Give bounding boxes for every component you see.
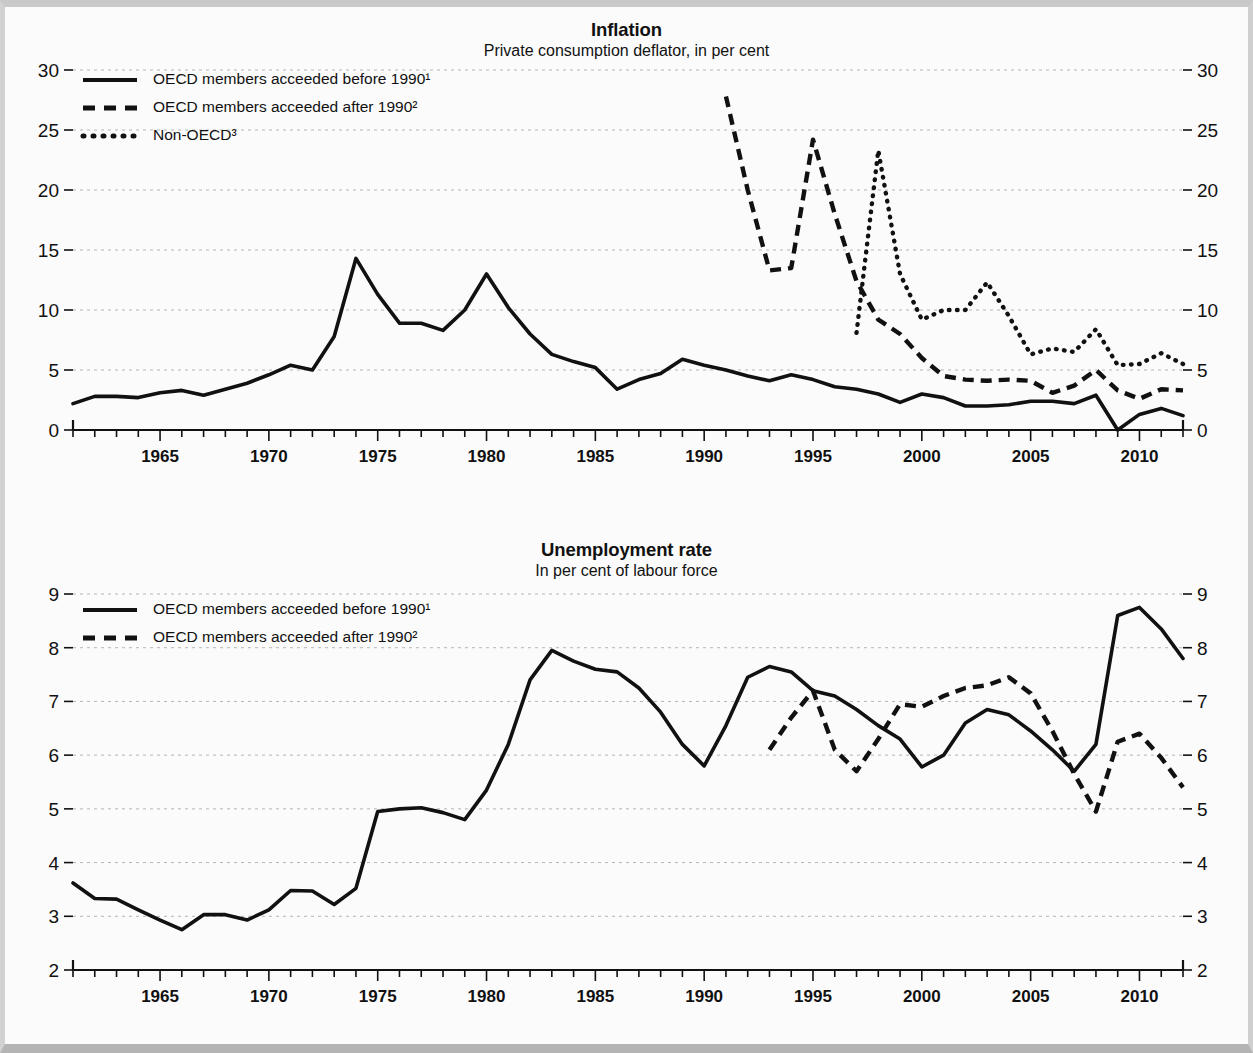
x-tick-label: 1985 [576,447,614,466]
unemployment-figure: Unemployment rate In per cent of labour … [5,517,1248,1044]
inflation-subtitle: Private consumption deflator, in per cen… [5,42,1248,60]
x-minor-ticks [73,970,1183,981]
inflation-figure: Inflation Private consumption deflator, … [5,7,1248,517]
y-tick-label-right: 2 [1197,960,1208,981]
y-tick-label-left: 3 [48,906,59,927]
unemployment-plot: 2233445566778899196519701975198019851990… [5,580,1248,1030]
x-tick-label: 1965 [141,987,179,1006]
y-tick-label-right: 0 [1197,420,1208,441]
y-tick-label-left: 4 [48,853,59,874]
y-tick-label-right: 20 [1197,180,1218,201]
y-tick-label-right: 8 [1197,638,1208,659]
y-tick-label-right: 6 [1197,745,1208,766]
y-tick-label-left: 0 [48,420,59,441]
y-tick-label-left: 20 [38,180,59,201]
inflation-titles: Inflation Private consumption deflator, … [5,7,1248,60]
series-line-solid [73,607,1183,929]
x-tick-label: 2005 [1012,987,1050,1006]
series-line-dotted [857,150,1183,365]
legend: OECD members acceeded before 1990¹OECD m… [83,600,430,645]
y-tick-label-left: 25 [38,120,59,141]
x-tick-label: 1985 [576,987,614,1006]
x-tick-label: 2000 [903,987,941,1006]
x-tick-label: 1970 [250,987,288,1006]
x-tick-label: 1990 [685,987,723,1006]
y-tick-label-right: 7 [1197,691,1208,712]
unemployment-subtitle: In per cent of labour force [5,562,1248,580]
unemployment-titles: Unemployment rate In per cent of labour … [5,517,1248,580]
x-axis-labels: 1965197019751980198519901995200020052010 [141,447,1158,466]
x-tick-label: 2000 [903,447,941,466]
y-tick-label-right: 10 [1197,300,1218,321]
x-tick-label: 1980 [468,447,506,466]
y-tick-label-left: 7 [48,691,59,712]
x-minor-ticks [73,430,1183,441]
figure-page: Inflation Private consumption deflator, … [0,0,1253,1053]
y-tick-label-left: 6 [48,745,59,766]
x-tick-label: 1965 [141,447,179,466]
y-tick-label-right: 4 [1197,853,1208,874]
legend-label: OECD members acceeded before 1990¹ [153,600,430,617]
y-tick-label-right: 15 [1197,240,1218,261]
y-tick-label-left: 5 [48,799,59,820]
inflation-plot: 0055101015152020252530301965197019751980… [5,60,1248,500]
legend-label: OECD members acceeded after 1990² [153,628,417,645]
x-tick-label: 2010 [1121,447,1159,466]
x-tick-label: 2005 [1012,447,1050,466]
gridlines [73,594,1183,970]
x-tick-label: 1975 [359,447,397,466]
x-axis-labels: 1965197019751980198519901995200020052010 [141,987,1158,1006]
y-tick-label-right: 5 [1197,360,1208,381]
series-line-solid [73,258,1183,430]
y-tick-label-right: 5 [1197,799,1208,820]
x-tick-label: 1980 [468,987,506,1006]
y-tick-label-left: 5 [48,360,59,381]
y-tick-label-left: 15 [38,240,59,261]
unemployment-title: Unemployment rate [5,539,1248,561]
y-tick-label-left: 8 [48,638,59,659]
x-tick-label: 2010 [1121,987,1159,1006]
y-tick-label-left: 9 [48,584,59,605]
legend-label: OECD members acceeded after 1990² [153,98,417,115]
x-tick-label: 1990 [685,447,723,466]
y-tick-label-left: 2 [48,960,59,981]
legend: OECD members acceeded before 1990¹OECD m… [83,70,430,143]
series-line-dashed [726,96,1183,398]
series-line-dashed [769,677,1183,811]
inflation-title: Inflation [5,19,1248,41]
x-tick-label: 1970 [250,447,288,466]
y-tick-label-right: 3 [1197,906,1208,927]
y-tick-label-left: 10 [38,300,59,321]
y-tick-label-left: 30 [38,60,59,81]
y-tick-label-right: 30 [1197,60,1218,81]
legend-label: OECD members acceeded before 1990¹ [153,70,430,87]
gridlines [73,70,1183,430]
x-tick-label: 1995 [794,987,832,1006]
y-tick-label-right: 9 [1197,584,1208,605]
x-tick-label: 1975 [359,987,397,1006]
y-tick-label-right: 25 [1197,120,1218,141]
x-tick-label: 1995 [794,447,832,466]
legend-label: Non-OECD³ [153,126,237,143]
